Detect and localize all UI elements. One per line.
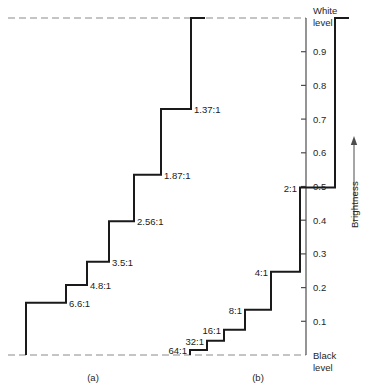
step-label: 64:1 [169, 345, 188, 356]
step-label: 8:1 [229, 305, 242, 316]
axis-tick-label: 0.9 [313, 46, 326, 57]
axis-tick-label: 0.3 [313, 248, 326, 259]
axis-tick-label: 0.8 [313, 80, 326, 91]
brightness-axis-title: Brightness [349, 181, 360, 228]
axis-tick-label: 0.7 [313, 114, 326, 125]
step-label: 32:1 [186, 336, 205, 347]
black-level-label-line2: level [313, 362, 333, 373]
axis-tick-label: 0.5 [313, 181, 326, 192]
step-label: 4.8:1 [90, 280, 111, 291]
step-label: 3.5:1 [112, 257, 133, 268]
axis-tick-label: 0.2 [313, 282, 326, 293]
step-label: 1.87:1 [164, 170, 190, 181]
step-label: 2:1 [284, 183, 297, 194]
axis-tick-label: 0.4 [313, 215, 326, 226]
brightness-step-figure: 0.90.80.70.60.50.40.30.20.1WhitelevelBla… [0, 0, 369, 390]
caption-b: (b) [252, 372, 264, 383]
step-label: 6.6:1 [69, 298, 90, 309]
axis-tick-label: 0.1 [313, 316, 326, 327]
black-level-label-line1: Black [313, 350, 336, 361]
axis-tick-label: 0.6 [313, 147, 326, 158]
caption-a: (a) [87, 372, 99, 383]
step-label: 2.56:1 [137, 216, 163, 227]
step-label: 16:1 [203, 325, 222, 336]
step-label: 4:1 [255, 267, 268, 278]
chart-canvas: 0.90.80.70.60.50.40.30.20.1WhitelevelBla… [0, 0, 369, 390]
brightness-arrow-head [351, 136, 357, 145]
white-level-label-line1: White [313, 5, 337, 16]
staircase-a [26, 18, 205, 355]
step-label: 1.37:1 [194, 104, 220, 115]
white-level-label-line2: level [313, 17, 333, 28]
